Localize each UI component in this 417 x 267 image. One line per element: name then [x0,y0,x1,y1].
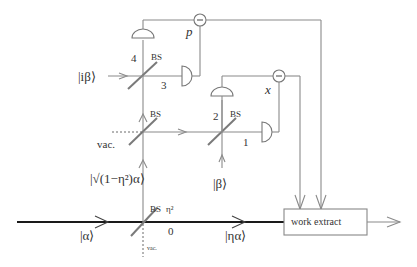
label-ibeta: |iβ⟩ [78,69,96,84]
label-bs0: BS [150,204,161,214]
label-bs-right: BS [230,109,241,119]
label-x: x [264,82,271,97]
detector-4-icon [132,29,154,38]
label-alpha: |α⟩ [80,228,94,243]
detector-1-icon [262,122,272,142]
label-reflected: |√(1−η²)α⟩ [90,171,145,186]
label-bs-mid: BS [150,109,161,119]
label-beta: |β⟩ [213,176,227,191]
label-bs-top: BS [151,52,162,62]
work-extract-label: work extract [291,216,341,227]
port-1: 1 [243,136,249,148]
label-vac-mid: vac. [97,138,115,150]
detector-2-icon [211,87,233,96]
port-4: 4 [131,52,137,64]
label-vac-bottom: vac. [147,245,157,251]
port-2: 2 [213,110,219,122]
label-eta-alpha: |ηα⟩ [225,228,246,243]
port-0: 0 [168,225,174,237]
optical-diagram: |iβ⟩ |β⟩ |α⟩ |ηα⟩ |√(1−η²)α⟩ BS η² BS BS… [0,0,417,267]
label-p: p [185,24,193,39]
label-eta-squared: η² [166,204,174,214]
detector-3-icon [182,66,192,86]
port-3: 3 [161,79,167,91]
